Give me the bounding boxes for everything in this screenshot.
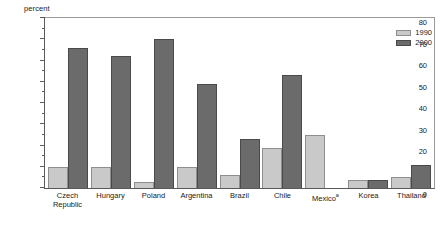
bar-1990 <box>305 135 325 188</box>
x-axis-label-line1: Hungary <box>96 191 124 200</box>
x-axis-label: Thailand <box>390 191 433 209</box>
bar-group <box>47 18 90 188</box>
bar-group <box>346 18 389 188</box>
legend-swatch <box>396 40 411 46</box>
bar-2000 <box>411 165 431 188</box>
legend-label: 2000 <box>415 39 432 47</box>
bar-chart: percent 01020304050607080 CzechRepublicH… <box>0 0 444 225</box>
legend-entry: 2000 <box>396 39 432 47</box>
x-axis-label-line1: Poland <box>142 191 165 200</box>
x-axis-category-labels: CzechRepublicHungaryPolandArgentinaBrazi… <box>44 191 435 209</box>
x-axis-label: Chile <box>261 191 304 209</box>
bar-1990 <box>391 177 411 188</box>
x-axis-label-line1: Korea <box>358 191 378 200</box>
y-axis-unit-label: percent <box>24 4 50 13</box>
plot-area: 01020304050607080 <box>44 17 435 189</box>
bar-1990 <box>91 167 111 188</box>
bar-group <box>90 18 133 188</box>
chart-legend: 19902000 <box>396 29 432 47</box>
bar-2000 <box>154 39 174 188</box>
bar-2000 <box>111 56 131 188</box>
bar-1990 <box>348 180 368 189</box>
x-axis-label-line1: Argentina <box>180 191 212 200</box>
x-axis-label-line1: Chile <box>274 191 291 200</box>
bar-1990 <box>220 175 240 188</box>
bar-2000 <box>368 180 388 189</box>
bar-1990 <box>262 148 282 188</box>
legend-swatch <box>396 30 411 36</box>
bar-group <box>261 18 304 188</box>
bar-group <box>304 18 347 188</box>
bar-2000 <box>282 75 302 188</box>
x-axis-label: CzechRepublic <box>46 191 89 209</box>
bar-group <box>218 18 261 188</box>
x-axis-label: Mexicoa <box>304 191 347 209</box>
bar-group <box>175 18 218 188</box>
x-axis-label-line1: Thailand <box>397 191 426 200</box>
bar-2000 <box>68 48 88 188</box>
x-axis-label-line1: Czech <box>57 191 78 200</box>
bar-groups <box>45 18 434 188</box>
x-axis-label: Argentina <box>175 191 218 209</box>
x-axis-label: Poland <box>132 191 175 209</box>
legend-label: 1990 <box>415 29 432 37</box>
bar-group <box>133 18 176 188</box>
x-axis-label-line2: Republic <box>46 200 89 209</box>
bar-1990 <box>134 182 154 188</box>
x-axis-label: Korea <box>347 191 390 209</box>
bar-1990 <box>177 167 197 188</box>
bar-1990 <box>48 167 68 188</box>
bar-2000 <box>240 139 260 188</box>
x-axis-label: Hungary <box>89 191 132 209</box>
x-axis-label-line1: Mexico <box>312 194 336 203</box>
bar-2000 <box>197 84 217 188</box>
x-axis-label-footnote: a <box>336 192 339 198</box>
x-axis-label: Brazil <box>218 191 261 209</box>
x-axis-label-line1: Brazil <box>230 191 249 200</box>
legend-entry: 1990 <box>396 29 432 37</box>
